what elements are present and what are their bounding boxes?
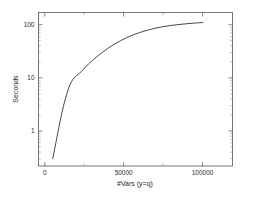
data-series-curve [53,23,203,159]
x-axis-title: #Vars (y=q) [117,180,153,188]
chart-plot-area: 110100 050000100000 Seconds #Vars (y=q) [0,0,257,199]
plot-frame [39,13,233,167]
x-axis-tick-labels: 050000100000 [43,169,214,176]
series-line-runtime [53,23,203,159]
y-axis-tick-labels: 110100 [24,21,35,134]
y-tick-label: 100 [24,21,35,28]
x-tick-label: 0 [43,169,47,176]
x-tick-label: 50000 [115,169,133,176]
y-axis-title: Seconds [12,75,19,103]
y-tick-label: 10 [27,74,35,81]
y-tick-label: 1 [31,127,35,134]
chart-figure: 110100 050000100000 Seconds #Vars (y=q) [0,0,257,199]
x-tick-label: 100000 [192,169,214,176]
